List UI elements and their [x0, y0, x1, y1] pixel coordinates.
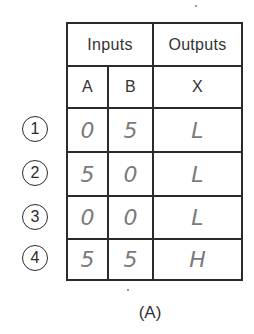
- row-number-badge: 4: [22, 245, 48, 271]
- row-number: 4: [31, 249, 40, 267]
- table-cell-a: 0: [68, 197, 107, 238]
- column-header-b: B: [109, 67, 152, 107]
- row-number: 3: [31, 208, 40, 226]
- table-cell-a: 5: [68, 153, 107, 195]
- table-cell-x: H: [154, 240, 241, 279]
- table-cell-a: 0: [68, 109, 107, 151]
- row-number-badge: 2: [22, 160, 48, 186]
- table-cell-b: 5: [109, 240, 152, 279]
- figure-caption: (A): [130, 303, 170, 323]
- table-border-bottom: [67, 279, 243, 281]
- row-number: 1: [31, 120, 40, 138]
- table-cell-x: L: [154, 197, 241, 238]
- outputs-header: Outputs: [154, 24, 241, 65]
- table-cell-b: 5: [109, 109, 152, 151]
- table-cell-x: L: [154, 153, 241, 195]
- inputs-header: Inputs: [68, 24, 152, 65]
- row-number-badge: 1: [22, 116, 48, 142]
- table-cell-b: 0: [109, 153, 152, 195]
- row-number-badge: 3: [22, 204, 48, 230]
- table-cell-a: 5: [68, 240, 107, 279]
- row-number: 2: [31, 164, 40, 182]
- column-header-x: X: [154, 67, 241, 107]
- table-cell-x: L: [154, 109, 241, 151]
- table-border-right: [241, 22, 243, 281]
- speck-mark: [127, 289, 129, 291]
- table-cell-b: 0: [109, 197, 152, 238]
- speck-mark: [195, 5, 197, 7]
- column-header-a: A: [68, 67, 107, 107]
